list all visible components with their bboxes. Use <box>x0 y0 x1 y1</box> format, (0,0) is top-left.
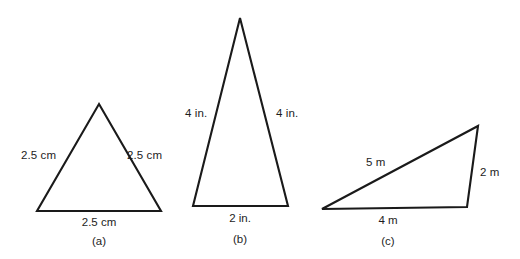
geometry-figure: 2.5 cm 2.5 cm 2.5 cm (a) 4 in. 4 in. 2 i… <box>0 0 520 259</box>
triangle-a-caption: (a) <box>59 235 139 248</box>
triangle-a-right-side-label: 2.5 cm <box>127 149 162 162</box>
triangle-c-vertical-side-label: 2 m <box>480 166 499 179</box>
triangle-b-outline <box>193 18 288 206</box>
triangle-c-base-label: 4 m <box>348 214 428 227</box>
triangle-a-base-label: 2.5 cm <box>59 216 139 229</box>
triangle-c-outline <box>322 126 478 209</box>
triangle-c-hypotenuse-label: 5 m <box>366 156 385 169</box>
triangle-b-base-label: 2 in. <box>200 212 280 225</box>
triangle-b-caption: (b) <box>200 233 280 246</box>
triangle-b-right-side-label: 4 in. <box>276 107 298 120</box>
triangle-b-left-side-label: 4 in. <box>185 107 207 120</box>
triangle-a-left-side-label: 2.5 cm <box>21 149 56 162</box>
triangle-c-caption: (c) <box>348 235 428 248</box>
